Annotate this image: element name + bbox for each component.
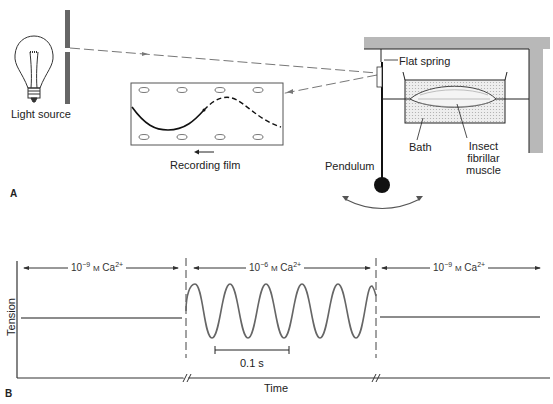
panel-b-label: B	[5, 388, 12, 399]
arrow-left-icon	[194, 150, 199, 155]
arrow-left-icon	[23, 266, 29, 270]
arrow-left-icon	[193, 266, 199, 270]
panel-a-label: A	[10, 188, 17, 199]
bath	[382, 72, 529, 140]
beam-arrow-icon	[287, 89, 293, 94]
muscle-label-line3: muscle	[466, 164, 501, 176]
beam-arrow-icon	[142, 52, 148, 56]
swing-arc	[345, 199, 420, 209]
scale-bar-label: 0.1 s	[240, 357, 264, 369]
muscle-label: Insect fibrillar muscle	[466, 140, 501, 176]
x-axis-label: Time	[264, 382, 288, 394]
slit-upper	[65, 10, 70, 48]
muscle-label-line2: fibrillar	[466, 152, 501, 164]
arrow-right-icon	[365, 266, 371, 270]
arrow-right-icon	[173, 266, 179, 270]
recording-film	[131, 83, 283, 145]
muscle-label-line1: Insect	[466, 140, 501, 152]
concentration-label-2: 10−6 M Ca2+	[246, 262, 304, 275]
y-axis-label: Tension	[5, 298, 17, 336]
flat-spring-label: Flat spring	[399, 55, 450, 67]
diagram-canvas	[0, 0, 553, 404]
tension-graph	[17, 258, 550, 382]
arrow-left-icon	[381, 266, 387, 270]
recording-film-label: Recording film	[170, 159, 240, 171]
light-source-label: Light source	[11, 108, 71, 120]
arrow-right-icon	[535, 266, 541, 270]
pendulum	[374, 49, 390, 193]
pendulum-label: Pendulum	[325, 160, 375, 172]
light-bulb-icon	[15, 36, 53, 102]
concentration-label-1: 10−9 M Ca2+	[68, 262, 126, 275]
slit-lower	[65, 52, 70, 104]
bath-label: Bath	[409, 141, 432, 153]
concentration-label-3: 10−9 M Ca2+	[430, 262, 488, 275]
